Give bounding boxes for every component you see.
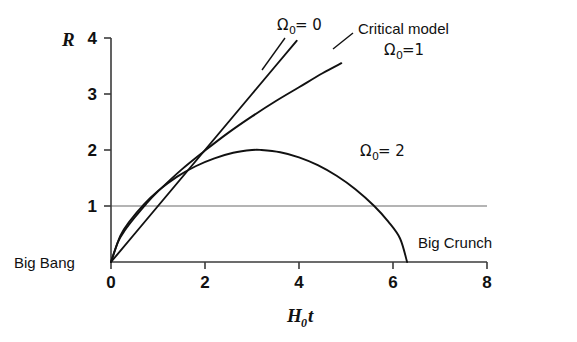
critical-model-title: Critical model bbox=[358, 20, 449, 37]
critical-model-leader-line bbox=[333, 33, 353, 49]
annotation-omega0-equals-0: Ω 0 = 0 bbox=[262, 16, 322, 70]
curve-omega0-equals-1 bbox=[111, 63, 341, 262]
x-tick-label-6: 6 bbox=[388, 273, 397, 292]
omega2-relation: = 2 bbox=[378, 142, 405, 160]
omega0-symbol: Ω bbox=[277, 16, 288, 34]
big-bang-label: Big Bang bbox=[14, 254, 75, 271]
omega0-leader-line bbox=[262, 38, 285, 70]
omega1-relation: =1 bbox=[402, 41, 424, 59]
omega2-symbol: Ω bbox=[360, 142, 371, 160]
x-tick-label-0: 0 bbox=[106, 273, 115, 292]
x-tick-label-8: 8 bbox=[482, 273, 491, 292]
x-tick-label-4: 4 bbox=[294, 273, 304, 292]
annotation-critical-model: Critical model Ω 0 =1 bbox=[333, 20, 449, 62]
figure-canvas: 1 2 3 4 0 2 4 6 8 R H 0 t Ω 0 = 0 bbox=[0, 0, 577, 342]
omega1-symbol: Ω bbox=[384, 41, 395, 59]
y-tick-label-1: 1 bbox=[88, 197, 97, 216]
y-tick-label-4: 4 bbox=[88, 29, 98, 48]
x-axis-label: H 0 t bbox=[286, 305, 314, 330]
x-axis-label-subscript: 0 bbox=[301, 316, 307, 330]
annotation-omega0-equals-2: Ω 0 = 2 bbox=[360, 142, 405, 163]
x-axis-label-tail: t bbox=[308, 305, 314, 326]
omega0-relation: = 0 bbox=[295, 16, 322, 34]
y-tick-label-3: 3 bbox=[88, 85, 97, 104]
x-tick-label-2: 2 bbox=[200, 273, 209, 292]
big-crunch-label: Big Crunch bbox=[418, 234, 492, 251]
cosmology-scale-factor-figure: 1 2 3 4 0 2 4 6 8 R H 0 t Ω 0 = 0 bbox=[0, 0, 577, 342]
y-tick-label-2: 2 bbox=[88, 141, 97, 160]
y-axis-label: R bbox=[61, 29, 75, 50]
